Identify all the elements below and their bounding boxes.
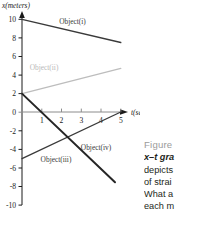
y-tick-label-neg4: -4 <box>10 145 17 154</box>
y-tick-label-4: 4 <box>12 71 16 80</box>
caption-line-4: What a <box>144 188 211 200</box>
x-tick-label-1: 1 <box>40 116 44 125</box>
series-line-object-iv <box>22 94 115 183</box>
figure-root: 10 8 6 4 2 0 -2 -4 -6 -8 -10 1 2 3 4 5 x… <box>0 0 211 225</box>
caption-figure-word: Figure <box>144 139 211 151</box>
y-tick-label-6: 6 <box>12 52 16 61</box>
chart-figure: 10 8 6 4 2 0 -2 -4 -6 -8 -10 1 2 3 4 5 x… <box>0 0 140 225</box>
series-line-object-iii <box>22 112 121 159</box>
y-tick-label-neg8: -8 <box>10 182 17 191</box>
x-tick-label-2: 2 <box>60 116 64 125</box>
y-axis-ticks <box>19 19 23 205</box>
figure-caption: Figure x–t gra depicts of strai What a e… <box>144 139 211 213</box>
caption-title-line: x–t gra <box>144 151 211 163</box>
series-label-object-iii: Object(iii) <box>41 155 72 164</box>
series-label-object-iv: Object(iv) <box>81 143 112 152</box>
y-tick-label-neg2: -2 <box>10 127 17 136</box>
x-tick-label-5: 5 <box>119 116 123 125</box>
y-axis-title: x(meters) <box>1 1 30 10</box>
y-tick-label-neg10: -10 <box>6 201 16 210</box>
y-tick-label-0: 0 <box>12 108 16 117</box>
x-tick-label-3: 3 <box>79 116 83 125</box>
y-tick-label-8: 8 <box>12 34 16 43</box>
y-tick-label-neg6: -6 <box>10 164 17 173</box>
caption-line-5: each m <box>144 200 211 212</box>
x-axis-ticks <box>42 109 121 112</box>
series-label-object-ii: Object(ii) <box>30 63 59 72</box>
xt-graph-svg: 10 8 6 4 2 0 -2 -4 -6 -8 -10 1 2 3 4 5 x… <box>0 0 140 225</box>
x-axis-title: t(seconds) <box>131 108 140 117</box>
y-axis-arrow-icon <box>19 11 25 18</box>
caption-line-3: of strai <box>144 176 211 188</box>
series-line-object-ii <box>22 68 121 93</box>
caption-line-2: depicts <box>144 164 211 176</box>
y-tick-label-10: 10 <box>8 15 16 24</box>
y-tick-label-2: 2 <box>12 89 16 98</box>
series-label-object-i: Object(i) <box>59 17 86 26</box>
